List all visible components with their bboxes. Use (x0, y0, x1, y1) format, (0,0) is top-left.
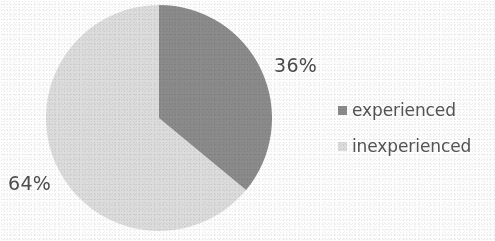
pie-chart-figure: 36% 64% experienced inexperienced (0, 0, 495, 241)
pie-data-label-experienced: 36% (274, 54, 317, 76)
pie-graphic (46, 5, 272, 231)
chart-legend: experienced inexperienced (338, 92, 495, 164)
legend-swatch-icon-inexperienced (338, 142, 347, 151)
pie-data-label-inexperienced: 64% (8, 172, 51, 194)
legend-item-experienced: experienced (338, 92, 495, 128)
legend-swatch-icon-experienced (338, 106, 347, 115)
legend-label-inexperienced: inexperienced (352, 136, 471, 156)
legend-item-inexperienced: inexperienced (338, 128, 495, 164)
pie-chart-plot-area (46, 5, 272, 231)
legend-label-experienced: experienced (352, 100, 456, 120)
